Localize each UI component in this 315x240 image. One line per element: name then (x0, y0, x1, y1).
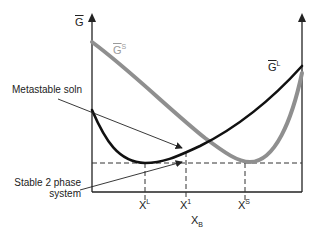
solid-curve-label-base: G (113, 44, 122, 56)
stable-annotation-line1: Stable 2 phase (8, 177, 81, 188)
x-axis-label-sub: B (198, 221, 203, 228)
stable-two-phase-annotation: Stable 2 phase system (8, 177, 81, 199)
liquid-curve-label-base: G (268, 61, 277, 73)
xs-marker-sup: S (245, 198, 250, 205)
x1-marker-label: X1 (180, 200, 191, 211)
stable-two-phase-arrow (80, 162, 182, 190)
y-axis-label: G (75, 17, 84, 28)
free-energy-diagram (0, 0, 315, 240)
liquid-curve-label: GL (268, 62, 280, 73)
metastable-arrow (58, 99, 182, 148)
stable-annotation-line2: system (8, 188, 81, 199)
xs-marker-label: XS (238, 200, 250, 211)
liquid-curve-label-sup: L (277, 60, 281, 67)
xl-marker-label: XL (139, 200, 150, 211)
x-axis-label: XB (191, 215, 203, 226)
liquid-phase-curve (92, 66, 302, 163)
solid-curve-label-sup: S (122, 43, 127, 50)
xl-marker-sup: L (146, 198, 150, 205)
solid-curve-label: GS (113, 45, 126, 56)
x1-marker-sup: 1 (187, 198, 191, 205)
left-axis-arrow-icon (88, 13, 96, 22)
solid-phase-curve (92, 42, 302, 162)
y-axis-label-text: G (75, 16, 84, 28)
metastable-annotation: Metastable soln (12, 84, 82, 95)
right-axis-arrow-icon (298, 13, 306, 22)
